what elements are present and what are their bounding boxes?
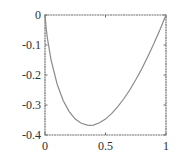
x-tick-label: 0.5 — [98, 139, 113, 153]
x-tick-label: 1 — [163, 139, 169, 153]
x-tick-label: 0 — [42, 139, 48, 153]
y-tick-label: -0.2 — [22, 68, 41, 82]
y-tick-label: -0.1 — [22, 38, 41, 52]
y-tick-label: -0.4 — [22, 128, 41, 142]
y-tick-label: -0.3 — [22, 98, 41, 112]
y-tick-label: 0 — [35, 8, 41, 22]
line-chart: 0 -0.1 -0.2 -0.3 -0.4 0 0.5 1 — [0, 0, 184, 154]
